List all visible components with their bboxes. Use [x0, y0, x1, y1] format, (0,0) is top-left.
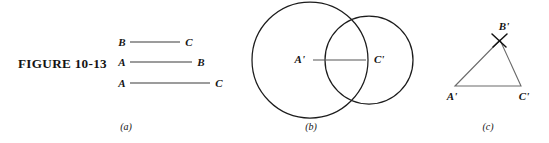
- geometry-figure-canvas: FIGURE 10-13 B C A B A C (a): [0, 0, 549, 143]
- circle-center-c-prime-label: C': [374, 53, 384, 65]
- segment-bc-left-label: B: [117, 36, 125, 48]
- circle-center-a-prime-label: A': [294, 53, 305, 65]
- triangle-vertex-c-prime-label: C': [519, 90, 529, 102]
- panel-c-label: (c): [482, 121, 494, 133]
- segment-row-ac: A C: [117, 77, 223, 89]
- segment-row-ab: A B: [117, 56, 204, 68]
- panel-a-segments: B C A B A C (a): [117, 36, 223, 133]
- segment-ac-left-label: A: [117, 77, 125, 89]
- figure-container: FIGURE 10-13 B C A B A C (a): [0, 0, 549, 143]
- segment-ab-right-label: B: [196, 56, 204, 68]
- segment-row-bc: B C: [117, 36, 193, 48]
- segment-ab-left-label: A: [117, 56, 125, 68]
- triangle-vertex-a-prime-label: A': [446, 90, 457, 102]
- panel-b-label: (b): [305, 121, 317, 133]
- segment-ac-right-label: C: [215, 77, 223, 89]
- triangle-a-prime-b-prime-c-prime: [455, 40, 521, 86]
- panel-a-label: (a): [120, 121, 132, 133]
- triangle-vertex-b-prime-label: B': [498, 20, 509, 32]
- panel-b-circles: A' C' (b): [252, 2, 413, 133]
- figure-caption: FIGURE 10-13: [18, 56, 107, 71]
- panel-c-triangle: A' B' C' (c): [446, 20, 529, 133]
- segment-bc-right-label: C: [185, 36, 193, 48]
